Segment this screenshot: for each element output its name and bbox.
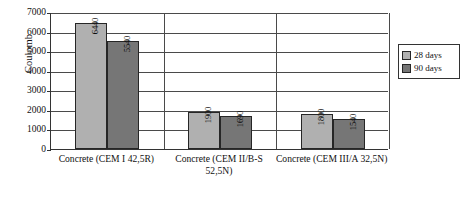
legend-swatch-90-days-icon (402, 64, 411, 73)
x-category-label-2: Concrete (CEM II/B-S 52,5N) (163, 153, 276, 177)
legend-item-28-days[interactable]: 28 days (402, 49, 456, 61)
y-axis-tick-labels: 0 1000 2000 3000 4000 5000 6000 7000 (4, 0, 46, 197)
bar-28-days-cat3[interactable]: 1800 (301, 114, 333, 149)
legend-label-28-days: 28 days (414, 49, 442, 61)
bar-group-3: 1800 1540 (276, 13, 389, 149)
bar-28-days-cat1[interactable]: 6440 (75, 23, 107, 149)
bar-group-1: 6440 5540 (51, 13, 164, 149)
y-tick-5000: 5000 (6, 47, 46, 57)
bar-value-label: 1690 (236, 111, 245, 127)
bar-value-label: 1800 (317, 109, 326, 125)
bar-value-label: 1900 (204, 107, 213, 123)
x-category-label-3: Concrete (CEM III/A 32,5N) (275, 153, 388, 165)
tick-mark-0 (47, 150, 51, 151)
y-tick-0: 0 (6, 145, 46, 155)
bar-90-days-cat1[interactable]: 5540 (107, 41, 139, 149)
bar-90-days-cat2[interactable]: 1690 (220, 116, 252, 149)
y-tick-7000: 7000 (6, 8, 46, 18)
bar-value-label: 5540 (123, 35, 132, 51)
y-tick-2000: 2000 (6, 106, 46, 116)
y-tick-3000: 3000 (6, 87, 46, 97)
bar-value-label: 1540 (349, 114, 358, 130)
bar-chart: Coulomb 0 1000 2000 3000 4000 5000 6000 … (0, 0, 466, 197)
x-category-label-1: Concrete (CEM I 42,5R) (50, 153, 163, 165)
legend-item-90-days[interactable]: 90 days (402, 62, 456, 74)
bar-group-2: 1900 1690 (164, 13, 277, 149)
legend-label-90-days: 90 days (414, 62, 442, 74)
chart-legend: 28 days 90 days (398, 44, 460, 79)
bar-90-days-cat3[interactable]: 1540 (333, 119, 365, 149)
bar-value-label: 6440 (91, 18, 100, 34)
y-tick-4000: 4000 (6, 67, 46, 77)
legend-swatch-28-days-icon (402, 51, 411, 60)
plot-area: 6440 5540 1900 1690 1800 1540 (50, 13, 388, 150)
y-tick-6000: 6000 (6, 28, 46, 38)
y-tick-1000: 1000 (6, 126, 46, 136)
bar-28-days-cat2[interactable]: 1900 (188, 112, 220, 149)
